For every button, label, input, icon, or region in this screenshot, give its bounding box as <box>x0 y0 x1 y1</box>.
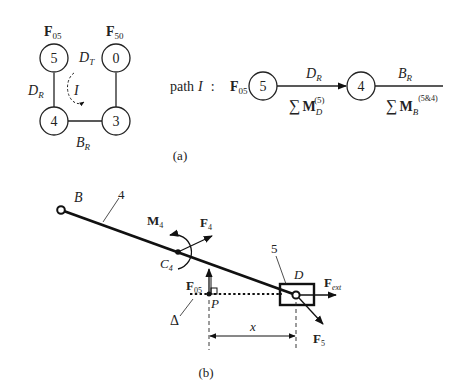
node-3: 3 <box>102 107 130 135</box>
loop-label: I <box>73 83 80 98</box>
path-edge-2-sum: ∑MB(5&4) <box>386 94 438 117</box>
path-edge-1-sum: ∑MD(5) <box>289 95 325 117</box>
force-f50-label: F50 <box>106 24 124 41</box>
label-link-4: 4 <box>118 187 125 202</box>
node-3-label: 3 <box>113 114 120 129</box>
edge-label-dt: DT <box>78 50 95 67</box>
link-4-leader <box>103 198 119 222</box>
edge-label-br: BR <box>76 135 91 152</box>
delta-leader <box>180 299 193 316</box>
caption-a: (a) <box>173 148 187 163</box>
figure-canvas: 5 0 4 3 F05 F50 DR BR DT I pathI: F05 5 … <box>0 0 466 388</box>
edge-label-dr: DR <box>27 83 44 100</box>
label-p: P <box>210 296 219 311</box>
label-slider-5: 5 <box>271 241 278 256</box>
label-f05: F05 <box>186 278 202 295</box>
label-m4: M4 <box>147 213 163 230</box>
panel-b-mechanism: B 4 C4 F4 M4 F05 P Δ 5 D Fext F5 x <box>57 187 342 350</box>
caption-b: (b) <box>198 365 213 380</box>
label-delta: Δ <box>170 313 179 328</box>
path-edge-2-label: BR <box>398 66 413 83</box>
node-5-label: 5 <box>51 51 58 66</box>
label-c4: C4 <box>160 256 173 273</box>
node-5: 5 <box>40 44 68 72</box>
slider-5-leader <box>276 256 286 284</box>
node-4: 4 <box>40 107 68 135</box>
label-f5: F5 <box>313 331 325 348</box>
force-f05-label: F05 <box>44 24 62 41</box>
force-f5-arrow <box>299 298 323 324</box>
label-x: x <box>249 319 256 334</box>
label-f4: F4 <box>200 215 212 232</box>
joint-d <box>292 291 299 298</box>
path-start-force: F05 <box>230 79 248 96</box>
label-d: D <box>293 267 304 282</box>
joint-b <box>57 206 65 214</box>
node-0: 0 <box>102 44 130 72</box>
panel-a-path: pathI: F05 5 DR ∑MD(5) 4 BR ∑MB(5&4) <box>170 66 443 117</box>
node-4-label: 4 <box>51 114 58 129</box>
path-prefix: pathI: <box>170 79 215 94</box>
node-0-label: 0 <box>113 51 120 66</box>
path-edge-1-label: DR <box>305 66 322 83</box>
force-f4-arrow <box>178 236 212 252</box>
path-node-5-label: 5 <box>260 79 267 94</box>
label-b: B <box>74 190 83 205</box>
path-node-4-label: 4 <box>358 79 365 94</box>
panel-a-graph: 5 0 4 3 F05 F50 DR BR DT I <box>27 24 130 152</box>
label-fext: Fext <box>324 275 342 292</box>
